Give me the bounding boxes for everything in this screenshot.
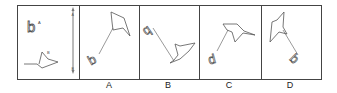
- option-d-shape: [270, 12, 287, 42]
- reference-panel: b A B A B: [24, 7, 75, 74]
- option-d-figure[interactable]: b: [270, 12, 302, 67]
- point-a-label: A: [38, 20, 41, 25]
- option-b-shape: [170, 43, 195, 63]
- option-a-figure[interactable]: b: [85, 12, 130, 68]
- arrow-top-label: A: [72, 13, 75, 17]
- option-b-figure[interactable]: q: [139, 22, 195, 63]
- option-d-letter: b: [287, 51, 303, 67]
- option-a-letter: b: [85, 51, 99, 68]
- option-a-connector: [99, 28, 113, 54]
- reference-shape: [24, 52, 58, 68]
- option-b-connector: [153, 28, 174, 61]
- option-c-letter: d: [206, 51, 217, 67]
- arrow-up-head: [72, 7, 75, 11]
- option-d-label[interactable]: D: [280, 80, 300, 90]
- option-c-figure[interactable]: d: [206, 24, 255, 67]
- option-c-connector: [217, 30, 228, 51]
- option-b-label[interactable]: B: [158, 80, 178, 90]
- reference-letter-b: b: [27, 18, 35, 35]
- outer-frame: [18, 6, 322, 80]
- option-a-label[interactable]: A: [99, 80, 119, 90]
- option-b-letter: q: [139, 22, 154, 38]
- option-c-label[interactable]: C: [219, 80, 239, 90]
- option-c-shape: [223, 24, 255, 42]
- option-a-shape: [111, 12, 130, 36]
- point-b-label: B: [47, 50, 50, 55]
